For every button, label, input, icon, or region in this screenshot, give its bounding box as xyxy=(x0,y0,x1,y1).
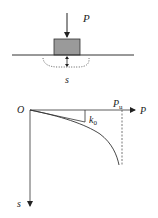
load-settlement-curve xyxy=(30,110,119,165)
s-axis-label: s xyxy=(17,198,21,209)
k0-label: k0 xyxy=(89,114,97,127)
loading-block xyxy=(54,39,80,55)
settlement-bowl xyxy=(43,58,89,67)
origin-label: O xyxy=(17,104,24,115)
p-axis-label: P xyxy=(139,105,146,116)
plate-load-diagram: P s xyxy=(12,12,134,85)
load-settlement-chart: O P s k0 Pu xyxy=(17,98,146,209)
figure-canvas: P s O P s k0 Pu xyxy=(0,0,158,218)
ultimate-load-label: Pu xyxy=(112,98,123,111)
load-label: P xyxy=(82,12,90,24)
settlement-double-arrow-icon xyxy=(65,56,69,67)
settlement-label: s xyxy=(65,74,69,85)
